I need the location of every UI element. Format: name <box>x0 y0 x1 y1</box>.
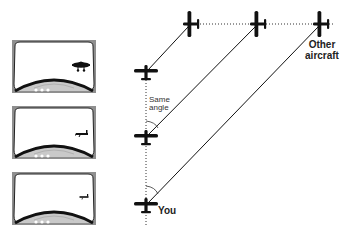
other-aircraft-icon-3 <box>313 11 329 37</box>
same-angle-label-line2: angle <box>149 104 170 112</box>
other-aircraft-label: Other aircraft <box>297 40 347 61</box>
same-angle-label: Same angle <box>149 96 170 113</box>
own-aircraft-icon-2 <box>134 130 158 145</box>
line-of-sight-1 <box>148 27 188 70</box>
line-of-sight-3 <box>148 27 318 203</box>
line-of-sight-2 <box>148 27 255 135</box>
collision-course-diagram <box>0 0 354 233</box>
other-aircraft-label-line1: Other <box>297 40 347 51</box>
other-aircraft-label-line2: aircraft <box>297 51 347 62</box>
own-aircraft-icon-3 <box>134 198 158 213</box>
same-angle-arc-2 <box>146 186 158 194</box>
other-aircraft-icon-2 <box>250 11 266 37</box>
you-label: You <box>158 206 176 217</box>
own-aircraft-icon-1 <box>134 65 158 80</box>
other-aircraft-icon-1 <box>183 11 199 37</box>
windshield-view-2 <box>12 106 96 159</box>
windshield-view-1 <box>12 40 96 93</box>
windshield-view-3 <box>12 172 96 225</box>
